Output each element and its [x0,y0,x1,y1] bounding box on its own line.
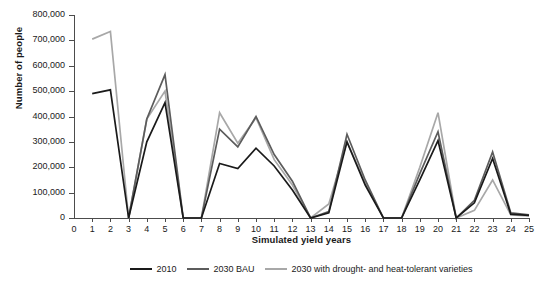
legend-label: 2030 BAU [213,263,254,275]
x-tick [165,218,166,222]
y-tick-label: 800,000 [5,9,65,19]
x-tick [129,218,130,222]
x-tick-label: 3 [119,224,139,234]
x-tick-label: 17 [373,224,393,234]
legend-swatch [265,268,287,271]
x-axis-title: Simulated yield years [74,234,529,245]
x-tick-label: 12 [282,224,302,234]
x-tick [147,218,148,222]
y-tick-label: 700,000 [5,34,65,44]
legend-item: 2030 with drought- and heat-tolerant var… [265,263,472,275]
series-lines [74,15,529,218]
x-tick [529,218,530,222]
x-tick-label: 5 [155,224,175,234]
x-tick [220,218,221,222]
x-tick-label: 2 [100,224,120,234]
x-tick-label: 25 [519,224,539,234]
x-tick-label: 11 [264,224,284,234]
y-tick-label: 500,000 [5,85,65,95]
x-tick [256,218,257,222]
x-tick-label: 9 [228,224,248,234]
y-tick [69,218,74,219]
x-tick-label: 23 [483,224,503,234]
x-tick [110,218,111,222]
x-tick-label: 20 [428,224,448,234]
series-line [92,31,529,218]
x-tick-label: 19 [410,224,430,234]
chart-figure: Number of people 0100,000200,000300,0004… [0,0,555,287]
x-tick [329,218,330,222]
x-tick-label: 24 [501,224,521,234]
y-tick-label: 0 [5,212,65,222]
x-tick [365,218,366,222]
legend-item: 2010 [130,263,176,275]
x-tick [347,218,348,222]
x-tick [238,218,239,222]
x-tick-label: 21 [446,224,466,234]
x-tick [474,218,475,222]
x-tick [420,218,421,222]
x-tick-label: 8 [210,224,230,234]
x-tick-label: 14 [319,224,339,234]
x-tick-label: 1 [82,224,102,234]
x-tick [493,218,494,222]
x-tick-label: 18 [392,224,412,234]
x-tick-label: 22 [464,224,484,234]
x-tick-label: 10 [246,224,266,234]
legend-swatch [130,268,152,271]
chart-legend: 20102030 BAU2030 with drought- and heat-… [74,262,529,276]
y-tick-label: 200,000 [5,161,65,171]
legend-item: 2030 BAU [187,263,254,275]
legend-label: 2010 [156,263,176,275]
plot-area: 0100,000200,000300,000400,000500,000600,… [74,15,529,218]
x-tick [511,218,512,222]
y-tick-label: 600,000 [5,60,65,70]
x-tick-label: 6 [173,224,193,234]
x-tick [274,218,275,222]
x-tick [292,218,293,222]
x-tick-label: 16 [355,224,375,234]
x-tick-label: 4 [137,224,157,234]
x-axis-line [74,218,529,219]
y-tick-label: 400,000 [5,111,65,121]
x-tick-label: 0 [64,224,84,234]
series-line [129,75,529,218]
y-tick-label: 300,000 [5,136,65,146]
series-line [92,90,529,218]
x-tick-label: 15 [337,224,357,234]
x-tick [92,218,93,222]
x-tick-label: 13 [301,224,321,234]
legend-label: 2030 with drought- and heat-tolerant var… [291,263,472,275]
legend-swatch [187,268,209,271]
x-tick [438,218,439,222]
y-tick-label: 100,000 [5,187,65,197]
x-tick-label: 7 [191,224,211,234]
